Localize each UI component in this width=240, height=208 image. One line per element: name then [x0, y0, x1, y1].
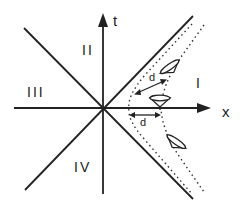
t-axis-arrow-icon — [98, 13, 108, 27]
arrowhead-icon — [155, 112, 161, 118]
x-axis-arrow-icon — [197, 103, 211, 113]
light-cone-icon — [163, 133, 187, 154]
x-axis-label: x — [222, 104, 230, 119]
distance-label-upper: d — [149, 72, 155, 83]
region-label-iv: IV — [74, 160, 91, 174]
arrowhead-icon — [134, 89, 141, 95]
horizon-line-future — [25, 16, 193, 190]
light-cone-icon — [159, 58, 183, 79]
horizon-line-past — [24, 28, 193, 199]
distance-label-lower: d — [140, 117, 146, 128]
t-axis-label: t — [113, 13, 117, 28]
region-label-i: I — [196, 76, 202, 90]
region-label-iii: III — [27, 85, 45, 99]
region-label-ii: II — [82, 43, 94, 57]
spacetime-diagram — [0, 0, 240, 208]
arrowhead-icon — [129, 112, 135, 118]
arrowhead-icon — [160, 79, 167, 85]
